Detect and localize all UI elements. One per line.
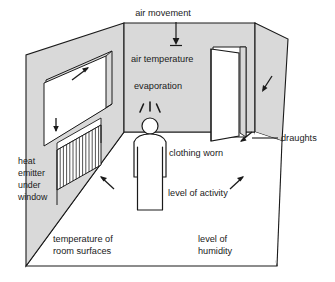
door-reveal (240, 47, 246, 137)
person-body (134, 134, 166, 210)
label-temperature-surfaces-line-2: room surfaces (53, 246, 112, 256)
label-level-of-humidity-line-1: level of (198, 234, 228, 244)
label-heat-emitter-line-3: under (18, 180, 41, 190)
label-clothing-worn: clothing worn (169, 148, 223, 158)
door-leaf (211, 49, 239, 141)
label-level-of-activity: level of activity (168, 188, 228, 198)
right-wall (255, 23, 288, 141)
label-heat-emitter-line-2: emitter (18, 168, 45, 178)
label-level-of-humidity-line-2: humidity (198, 246, 233, 256)
label-draughts: draughts (281, 133, 317, 143)
person-head (142, 118, 158, 134)
label-evaporation: evaporation (134, 81, 182, 91)
label-air-movement: air movement (135, 8, 191, 18)
label-heat-emitter-line-4: window (17, 192, 48, 202)
label-temperature-surfaces-line-1: temperature of (53, 234, 113, 244)
label-heat-emitter-line-1: heat (18, 156, 36, 166)
label-air-temperature: air temperature (131, 54, 193, 64)
thermal-comfort-diagram: air movement air temperature evaporation… (0, 0, 335, 282)
